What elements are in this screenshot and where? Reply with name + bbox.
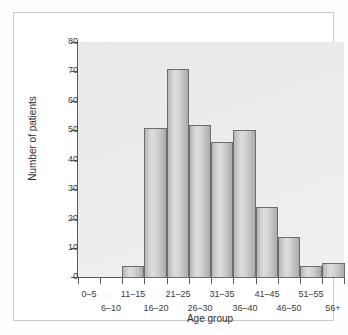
chart-panel: 80 70 60 50 40 30 20 10 0: [13, 12, 334, 321]
x-tick-mark: [167, 278, 168, 284]
x-tick-label-0: 0–5: [81, 289, 96, 299]
x-tick-label-4: 21–25: [165, 289, 190, 299]
bar-5[interactable]: [189, 125, 211, 278]
x-tick-mark: [233, 278, 234, 284]
bar-10[interactable]: [300, 266, 322, 278]
y-tick-label: 0: [52, 272, 78, 281]
x-tick-mark: [344, 278, 345, 284]
y-tick-label: 10: [52, 243, 78, 252]
x-tick-label-9: 46–50: [276, 303, 301, 313]
y-tick-label: 30: [52, 184, 78, 193]
bar-9[interactable]: [278, 237, 300, 278]
x-tick-label-10: 51–55: [298, 289, 323, 299]
y-tick-label: 20: [52, 214, 78, 223]
y-tick-label: 80: [52, 37, 78, 46]
x-tick-label-7: 36–40: [232, 303, 257, 313]
x-tick-label-8: 41–45: [254, 289, 279, 299]
x-tick-label-3: 16–20: [143, 303, 168, 313]
x-tick-label-2: 11–15: [121, 289, 145, 299]
x-axis-title: Age group: [164, 313, 256, 324]
x-tick-mark: [122, 278, 123, 284]
bar-8[interactable]: [256, 207, 278, 278]
x-tick-mark: [256, 278, 257, 284]
bar-2[interactable]: [122, 266, 144, 278]
x-tick-mark: [322, 278, 323, 284]
x-tick-mark: [189, 278, 190, 284]
x-tick-mark: [211, 278, 212, 284]
y-tick-label: 70: [52, 66, 78, 75]
y-tick-label: 50: [52, 125, 78, 134]
bar-4[interactable]: [167, 69, 189, 278]
y-axis-title: Number of patients: [27, 59, 38, 219]
bar-3[interactable]: [144, 128, 167, 278]
x-tick-label-11: 56+: [325, 303, 340, 313]
bar-6[interactable]: [211, 142, 233, 278]
x-tick-mark: [278, 278, 279, 284]
x-tick-mark: [78, 278, 79, 284]
y-axis-ticks: 80 70 60 50 40 30 20 10 0: [14, 13, 78, 335]
y-tick-label: 40: [52, 155, 78, 164]
figure-canvas: 80 70 60 50 40 30 20 10 0: [0, 0, 348, 335]
y-tick-label: 60: [52, 96, 78, 105]
x-tick-label-1: 6–10: [101, 303, 121, 313]
x-tick-mark: [100, 278, 101, 284]
x-tick-mark: [300, 278, 301, 284]
x-tick-label-6: 31–35: [209, 289, 234, 299]
bar-7[interactable]: [233, 130, 256, 278]
plot-area: [78, 42, 344, 278]
x-tick-label-5: 26–30: [187, 303, 212, 313]
bar-11[interactable]: [322, 263, 345, 278]
x-tick-mark: [144, 278, 145, 284]
